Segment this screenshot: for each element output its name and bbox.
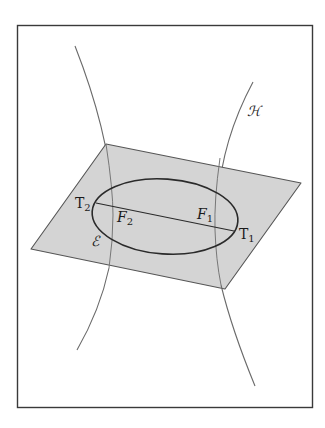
hyperbola-right-branch-lower — [221, 285, 255, 386]
hyperbola-left-branch-lower — [77, 268, 109, 350]
plane — [31, 144, 301, 289]
label-hyperbola: ℋ — [247, 103, 263, 119]
diagram-canvas: ℋ T2 F2 F1 T1 ℰ — [0, 0, 325, 428]
